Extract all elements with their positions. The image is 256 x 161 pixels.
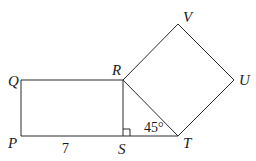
label-Q: Q xyxy=(8,73,19,89)
angle-label-T: 45° xyxy=(144,120,164,135)
segment-VU xyxy=(178,24,234,80)
label-V: V xyxy=(183,9,194,25)
right-angle-marker xyxy=(123,129,130,136)
label-U: U xyxy=(239,72,251,88)
length-label-PS: 7 xyxy=(62,141,69,156)
geometry-diagram: Q R V U P S T 7 45° xyxy=(0,0,256,161)
label-P: P xyxy=(7,135,17,151)
label-S: S xyxy=(118,141,126,157)
label-R: R xyxy=(111,62,121,78)
segment-RV xyxy=(123,24,178,80)
label-T: T xyxy=(183,135,193,151)
segment-UT xyxy=(178,80,234,136)
